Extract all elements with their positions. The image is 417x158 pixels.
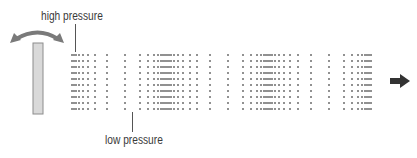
diagram-graphics	[0, 0, 417, 158]
right-arrow-icon	[390, 74, 410, 88]
curved-double-arrow-icon	[10, 33, 64, 44]
vibrating-rod	[33, 43, 43, 114]
air-particle-dots	[71, 54, 372, 110]
